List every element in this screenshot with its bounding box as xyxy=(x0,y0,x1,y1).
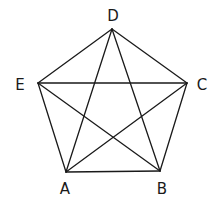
vertex-label-e: E xyxy=(15,76,24,94)
edge-cd xyxy=(112,29,187,83)
vertex-label-a: A xyxy=(60,180,71,198)
edge-ac xyxy=(66,83,187,172)
vertex-label-c: C xyxy=(197,76,207,94)
edge-bc xyxy=(160,83,187,171)
edge-ab xyxy=(66,171,160,172)
edge-be xyxy=(38,83,160,171)
edge-de xyxy=(38,29,112,83)
vertex-label-b: B xyxy=(157,180,167,198)
edge-ea xyxy=(38,83,66,172)
edges-group xyxy=(38,29,187,172)
edge-ad xyxy=(66,29,112,172)
vertex-label-d: D xyxy=(107,7,119,25)
pentagon-diagram: ABCDE xyxy=(0,0,216,208)
edge-bd xyxy=(112,29,160,171)
